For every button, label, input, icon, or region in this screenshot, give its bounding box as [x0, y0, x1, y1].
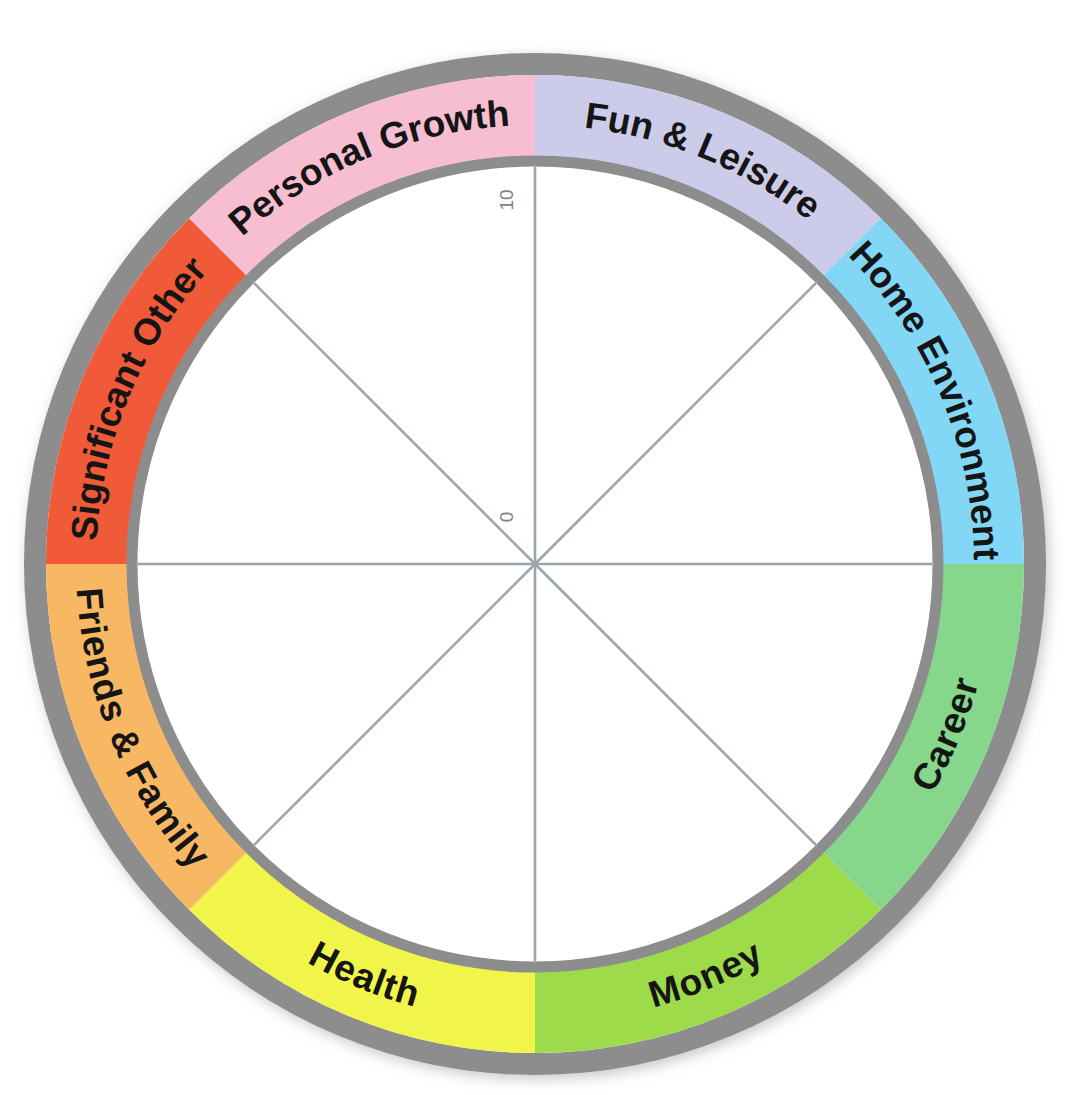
axis-tick-min: 0: [496, 512, 517, 523]
axis-tick-max: 10: [496, 189, 517, 210]
wheel-of-life-svg: 10 0 Fun & LeisureHome EnvironmentCareer…: [0, 0, 1073, 1095]
radial-spokes: [136, 165, 934, 963]
wheel-of-life-chart: 10 0 Fun & LeisureHome EnvironmentCareer…: [0, 0, 1073, 1095]
